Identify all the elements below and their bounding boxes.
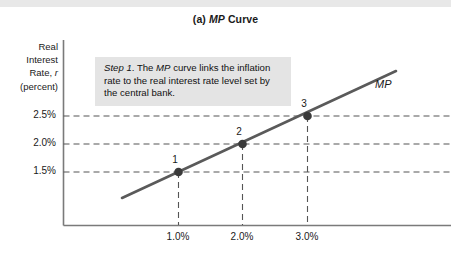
step-callout-step-label: Step 1 bbox=[104, 62, 132, 73]
x-tick-label-2.0: 2.0% bbox=[212, 231, 272, 242]
step-callout-text-part1: . The bbox=[132, 62, 156, 73]
data-point-label-2: 2 bbox=[229, 126, 249, 137]
data-point-2 bbox=[238, 140, 247, 149]
x-tick-label-3.0: 3.0% bbox=[277, 231, 337, 242]
step-callout-emphasis: MP bbox=[156, 62, 170, 73]
data-point-label-3: 3 bbox=[294, 98, 314, 109]
step-callout-box: Step 1. The MP curve links the inflation… bbox=[95, 57, 291, 106]
data-point-label-1: 1 bbox=[165, 154, 185, 165]
y-tick-label-2.5: 2.5% bbox=[0, 109, 56, 120]
x-tick-label-1.0: 1.0% bbox=[148, 231, 208, 242]
figure-panel-mp-curve: (a) MP Curve Real Interest Rate, r (perc… bbox=[0, 0, 451, 258]
data-point-3 bbox=[303, 112, 312, 121]
plot-area bbox=[0, 0, 451, 258]
mp-curve-label: MP bbox=[375, 78, 392, 90]
y-tick-label-1.5: 1.5% bbox=[0, 165, 56, 176]
data-point-1 bbox=[174, 168, 183, 177]
y-tick-label-2.0: 2.0% bbox=[0, 137, 56, 148]
